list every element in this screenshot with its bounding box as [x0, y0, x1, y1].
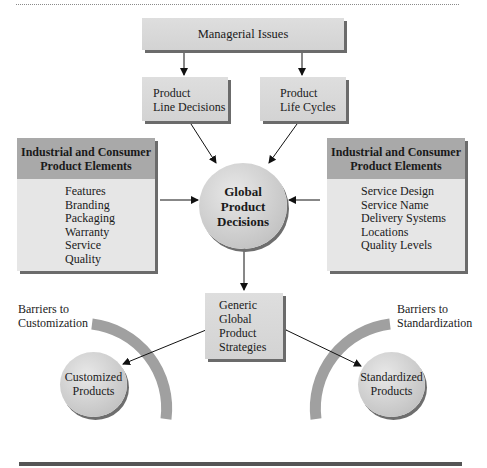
product-line-decisions-label: Product Line Decisions — [153, 86, 225, 114]
line-1: Global — [199, 184, 287, 199]
line-1: Standardized — [358, 370, 425, 384]
product-life-cycles-box: Product Life Cycles — [260, 77, 346, 121]
left-elements-list: Features Branding Packaging Warranty Ser… — [17, 179, 155, 267]
list-item: Branding — [65, 199, 155, 213]
left-elements-header: Industrial and Consumer Product Elements — [17, 138, 155, 179]
line-2: Global — [219, 312, 266, 326]
line-1: Product — [280, 86, 336, 100]
line-3: Decisions — [199, 214, 287, 229]
list-item: Service Name — [361, 199, 465, 213]
line-2: Customization — [18, 316, 88, 330]
line-1: Barriers to — [18, 302, 88, 316]
barriers-to-customization-label: Barriers to Customization — [18, 302, 88, 330]
list-item: Packaging — [65, 212, 155, 226]
generic-strategies-box: Generic Global Product Strategies — [205, 293, 283, 359]
list-item: Quality Levels — [361, 239, 465, 253]
arrow-line-decisions-to-center — [191, 124, 216, 163]
generic-strategies-label: Generic Global Product Strategies — [219, 298, 266, 354]
list-item: Delivery Systems — [361, 212, 465, 226]
list-item: Locations — [361, 226, 465, 240]
right-elements-list: Service Design Service Name Delivery Sys… — [327, 179, 465, 253]
right-elements-header: Industrial and Consumer Product Elements — [327, 138, 465, 179]
line-2: Line Decisions — [153, 100, 225, 114]
line-2: Products — [60, 384, 127, 398]
list-item: Warranty — [65, 226, 155, 240]
product-line-decisions-box: Product Line Decisions — [142, 77, 228, 121]
line-1: Product — [153, 86, 225, 100]
product-life-cycles-label: Product Life Cycles — [280, 86, 336, 114]
list-item: Features — [65, 185, 155, 199]
managerial-issues-box: Managerial Issues — [142, 18, 344, 50]
header-line-2: Product Elements — [17, 159, 155, 173]
list-item: Service Design — [361, 185, 465, 199]
header-line-1: Industrial and Consumer — [327, 145, 465, 159]
right-product-elements-box: Industrial and Consumer Product Elements… — [327, 138, 465, 271]
line-1: Customized — [60, 370, 127, 384]
left-product-elements-box: Industrial and Consumer Product Elements… — [17, 138, 155, 271]
global-product-decisions-circle: Global Product Decisions — [199, 163, 287, 249]
arrow-life-cycles-to-center — [269, 124, 297, 163]
line-2: Standardization — [397, 316, 472, 330]
line-2: Products — [358, 384, 425, 398]
header-line-1: Industrial and Consumer — [17, 145, 155, 159]
barriers-to-standardization-label: Barriers to Standardization — [397, 302, 472, 330]
list-item: Quality — [65, 253, 155, 267]
line-2: Product — [199, 199, 287, 214]
line-4: Strategies — [219, 340, 266, 354]
managerial-issues-label: Managerial Issues — [142, 27, 344, 41]
standardized-products-circle: Standardized Products — [358, 352, 425, 417]
list-item: Service — [65, 239, 155, 253]
line-3: Product — [219, 326, 266, 340]
bottom-rule — [19, 462, 462, 466]
line-1: Barriers to — [397, 302, 472, 316]
line-1: Generic — [219, 298, 266, 312]
line-2: Life Cycles — [280, 100, 336, 114]
header-line-2: Product Elements — [327, 159, 465, 173]
customized-products-circle: Customized Products — [60, 352, 127, 417]
